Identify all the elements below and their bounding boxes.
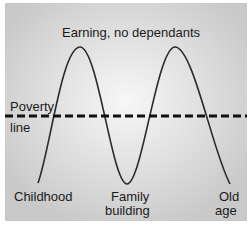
- poverty-label: Poverty: [10, 99, 54, 114]
- age-label: age: [215, 203, 237, 218]
- poverty-line-label: line: [10, 120, 30, 135]
- earning-label: Earning, no dependants: [62, 25, 200, 40]
- old-label: Old: [219, 189, 239, 204]
- building-label: building: [105, 203, 150, 218]
- childhood-label: Childhood: [14, 189, 73, 204]
- family-label: Family: [111, 189, 149, 204]
